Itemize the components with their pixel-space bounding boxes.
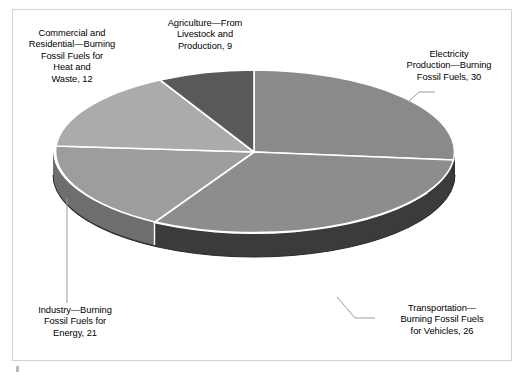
pie-chart-screenshot: Commercial and Residential—Burning Fossi… [0,0,527,375]
pie-label-electricity-production: Electricity Production—Burning Fossil Fu… [386,49,512,83]
page-corner-mark [16,366,19,372]
pie-top-face [56,70,455,233]
pie-slice-electricity-production[interactable] [254,70,454,160]
leader-line-electricity [408,92,435,102]
leader-line-transportation [337,297,375,318]
pie-label-agriculture: Agriculture—From Livestock and Productio… [146,18,264,52]
pie-label-industry: Industry—Burning Fossil Fuels for Energy… [12,305,138,339]
pie-label-commercial-residential: Commercial and Residential—Burning Fossi… [6,28,138,85]
pie-label-transportation: Transportation— Burning Fossil Fuels for… [378,303,506,337]
